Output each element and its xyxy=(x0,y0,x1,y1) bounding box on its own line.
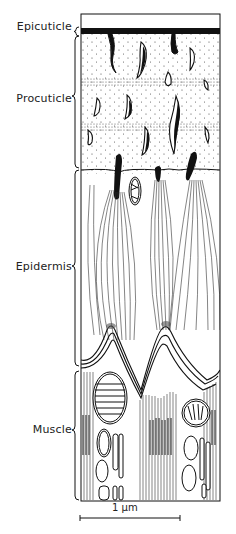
procuticle-layer xyxy=(81,34,220,174)
scale-bar-label: 1 µm xyxy=(112,502,138,513)
bracket-epicuticle xyxy=(74,27,79,36)
mitochondrion-epidermis xyxy=(129,177,141,205)
bracket-muscle xyxy=(72,371,79,500)
epidermis-fibrils xyxy=(88,180,220,340)
mitochondrion-muscle-large xyxy=(93,372,127,424)
mitochondrion-muscle-small xyxy=(182,399,210,427)
bracket-epidermis xyxy=(72,170,79,366)
epicuticle-layer xyxy=(81,28,220,34)
procuticle-dense-band-1 xyxy=(81,78,220,86)
procuticle-dense-band-2 xyxy=(81,122,220,131)
scale-bar xyxy=(80,515,180,521)
integument-diagram xyxy=(0,0,236,534)
bracket-procuticle xyxy=(72,36,79,168)
